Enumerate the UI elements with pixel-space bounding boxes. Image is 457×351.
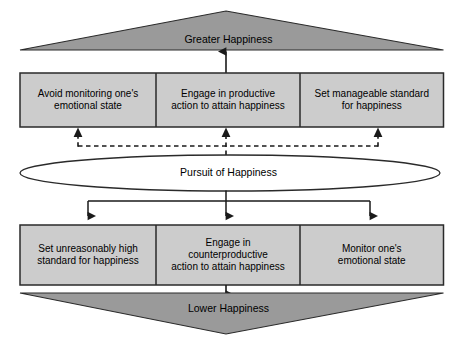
dashed-connector-group xyxy=(78,137,378,156)
maladaptive-label-3: Monitor one's emotional state xyxy=(301,243,443,267)
adaptive-label-2: Engage in productive action to attain ha… xyxy=(157,88,299,112)
happiness-pursuit-diagram: Greater Happiness Avoid monitoring one's… xyxy=(0,0,457,351)
greater-happiness-triangle xyxy=(20,11,444,50)
maladaptive-label-2: Engage in counterproductive action to at… xyxy=(157,237,299,272)
pursuit-of-happiness-ellipse xyxy=(20,155,440,191)
dashed-arrowhead-center xyxy=(222,128,231,138)
dashed-arrowheads xyxy=(74,128,383,138)
maladaptive-cell-counterproductive-action: Engage in counterproductive action to at… xyxy=(156,225,300,285)
maladaptive-cell-monitor-emotional-state: Monitor one's emotional state xyxy=(300,225,444,285)
adaptive-label-3: Set manageable standard for happiness xyxy=(301,88,443,112)
adaptive-cell-avoid-monitoring: Avoid monitoring one's emotional state xyxy=(20,73,156,127)
adaptive-label-1: Avoid monitoring one's emotional state xyxy=(22,88,154,112)
dashed-arrowhead-left xyxy=(74,128,83,138)
lower-happiness-triangle xyxy=(20,293,444,334)
maladaptive-label-1: Set unreasonably high standard for happi… xyxy=(21,243,155,267)
diagram-canvas xyxy=(0,0,457,351)
solid-connector-group xyxy=(88,191,370,217)
adaptive-cell-manageable-standard: Set manageable standard for happiness xyxy=(300,73,444,127)
maladaptive-cell-unreasonable-standard: Set unreasonably high standard for happi… xyxy=(20,225,156,285)
dashed-arrowhead-right xyxy=(374,128,383,138)
adaptive-cell-productive-action: Engage in productive action to attain ha… xyxy=(156,73,300,127)
